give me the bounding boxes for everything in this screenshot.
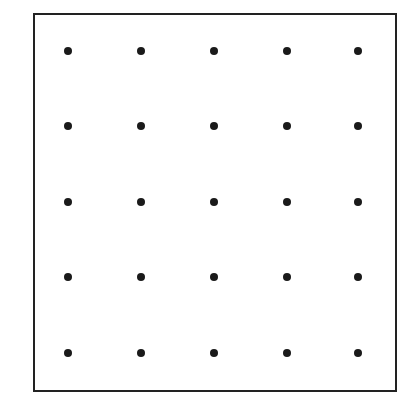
grid-dot bbox=[210, 273, 218, 281]
grid-dot bbox=[283, 122, 291, 130]
grid-dot bbox=[137, 273, 145, 281]
grid-dot bbox=[354, 198, 362, 206]
grid-dot bbox=[64, 273, 72, 281]
grid-dot bbox=[137, 349, 145, 357]
grid-dot bbox=[354, 273, 362, 281]
grid-dot bbox=[283, 47, 291, 55]
grid-dot bbox=[137, 122, 145, 130]
grid-dot bbox=[210, 198, 218, 206]
grid-dot bbox=[64, 122, 72, 130]
grid-dot bbox=[210, 47, 218, 55]
grid-dot bbox=[64, 198, 72, 206]
grid-dot bbox=[283, 198, 291, 206]
grid-dot bbox=[210, 122, 218, 130]
grid-dot bbox=[283, 349, 291, 357]
grid-dot bbox=[354, 349, 362, 357]
grid-dot bbox=[137, 198, 145, 206]
grid-dot bbox=[64, 349, 72, 357]
grid-dot bbox=[354, 47, 362, 55]
grid-dot bbox=[137, 47, 145, 55]
grid-dot bbox=[210, 349, 218, 357]
grid-dot bbox=[64, 47, 72, 55]
grid-dot bbox=[283, 273, 291, 281]
grid-dot bbox=[354, 122, 362, 130]
